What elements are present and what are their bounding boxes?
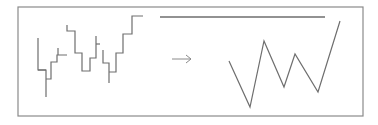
zigzag-series-line xyxy=(229,21,340,107)
step-segment xyxy=(103,50,109,83)
frame-border xyxy=(18,7,363,116)
step-segment xyxy=(67,25,96,71)
step-segment xyxy=(38,38,46,97)
step-segment xyxy=(46,55,67,79)
step-series-chart xyxy=(38,16,143,97)
step-segment xyxy=(109,16,143,72)
diagram-svg xyxy=(0,0,378,125)
diagram-canvas xyxy=(0,0,378,125)
arrow-right-icon xyxy=(172,55,191,63)
